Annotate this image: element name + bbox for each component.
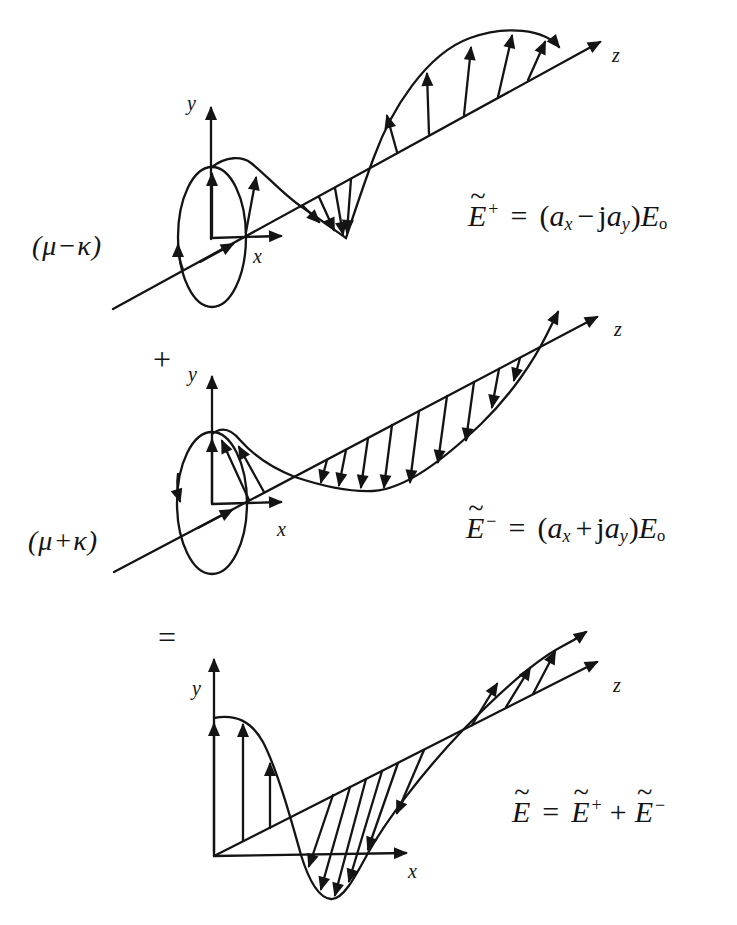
y-axis-label-top: y <box>187 92 196 115</box>
e-field-arrow <box>303 206 319 222</box>
y-axis-label-middle: y <box>188 363 197 386</box>
tilde-accent: ~ <box>637 777 652 809</box>
equals-operator: = <box>158 619 176 656</box>
e-field-arrow <box>246 178 256 232</box>
e-field-arrow <box>339 450 346 485</box>
eq-token: o <box>657 526 665 545</box>
eq-token: a <box>547 511 562 544</box>
eq-token: a <box>605 511 620 544</box>
x-axis <box>214 853 406 856</box>
coef-label-middle: (μ+κ) <box>28 525 98 557</box>
z-axis-label-bottom: z <box>613 674 621 697</box>
equation-e-sum: ~E=~E++~E− <box>512 795 665 829</box>
eq-token: − <box>577 199 594 232</box>
eq-token: ( <box>539 199 549 232</box>
e-tilde: ~E <box>466 511 484 545</box>
z-axis-label-middle: z <box>614 318 622 341</box>
e-field-arrow <box>387 116 397 152</box>
eq-token: y <box>620 526 628 546</box>
e-field-arrow <box>321 787 350 889</box>
eq-token: = <box>508 511 525 544</box>
propagation-arrow <box>198 510 232 528</box>
eq-token: y <box>622 214 630 234</box>
e-tilde: ~E <box>468 199 486 233</box>
e-tilde: ~E <box>512 795 530 829</box>
eq-token: ) <box>631 199 641 232</box>
eq-token: ( <box>537 511 547 544</box>
e-field-arrow <box>438 396 447 462</box>
e-field-arrow <box>384 425 392 487</box>
eq-token: a <box>549 199 564 232</box>
eq-token: E <box>639 511 657 544</box>
e-field-arrow <box>335 188 343 234</box>
e-field-arrow <box>427 74 429 134</box>
eq-token: o <box>659 214 667 233</box>
e-field-arrow <box>410 411 419 482</box>
z-axis <box>113 42 600 309</box>
eq-token: + <box>575 511 592 544</box>
propagation-arrow <box>200 244 233 262</box>
diagram-canvas <box>0 0 737 925</box>
eq-token: + <box>610 795 627 828</box>
eq-token: j <box>598 199 606 232</box>
plus-operator: + <box>153 341 171 378</box>
e-field-arrow <box>397 750 424 813</box>
eq-token: x <box>562 526 570 546</box>
tilde-accent: ~ <box>468 493 483 525</box>
eq-token: ) <box>629 511 639 544</box>
eq-token: j <box>596 511 604 544</box>
eq-token: x <box>564 214 572 234</box>
equation-e-minus: ~E−=(ax+jay)Eo <box>466 511 666 545</box>
eq-token: = <box>542 795 559 828</box>
e-field-arrow <box>498 36 512 97</box>
wave-envelope <box>212 312 558 491</box>
eq-token: + <box>592 795 602 815</box>
polarization-decomposition-figure: (μ−κ) y x z ~E+=(ax−jay)Eo + (μ+κ) y x z… <box>0 0 737 925</box>
e-field-arrow <box>361 438 368 487</box>
eq-token: a <box>607 199 622 232</box>
x-axis-label-top: x <box>253 245 262 268</box>
tilde-accent: ~ <box>470 181 485 213</box>
x-axis-label-middle: x <box>277 518 286 541</box>
tilde-accent: ~ <box>514 777 529 809</box>
diagram-linear-wave <box>214 632 597 899</box>
eq-token: − <box>655 795 665 815</box>
e-field-arrow <box>492 369 499 407</box>
equation-e-plus: ~E+=(ax−jay)Eo <box>468 199 668 233</box>
coef-label-top: (μ−κ) <box>32 230 102 262</box>
tilde-accent: ~ <box>574 777 589 809</box>
e-tilde: ~E <box>571 795 589 829</box>
y-axis-label-bottom: y <box>192 677 201 700</box>
eq-token: = <box>510 199 527 232</box>
e-field-arrow <box>464 48 471 115</box>
e-tilde: ~E <box>635 795 653 829</box>
eq-token: E <box>641 199 659 232</box>
z-axis-label-top: z <box>612 44 620 67</box>
eq-token: − <box>486 511 496 531</box>
diagram-rcp-wave <box>113 30 600 309</box>
x-axis-label-bottom: x <box>408 860 417 883</box>
eq-token: + <box>488 199 498 219</box>
